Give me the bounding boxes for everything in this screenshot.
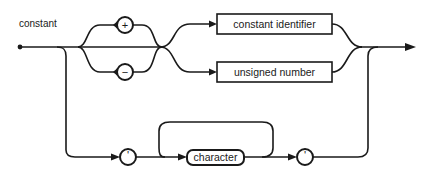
arrow-icon xyxy=(178,154,187,161)
constant-identifier-box: constant identifier xyxy=(217,14,332,34)
to-unsigned-number xyxy=(160,47,213,72)
unsigned-number-box: unsigned number xyxy=(217,62,332,82)
arrow-icon xyxy=(209,69,217,76)
open-quote-terminal: ' xyxy=(120,149,136,165)
arrow-icon xyxy=(288,154,297,161)
arrow-icon xyxy=(111,154,120,161)
plus-branch-out xyxy=(133,25,162,47)
diagram-title: constant xyxy=(19,18,57,29)
constant-identifier-label: constant identifier xyxy=(233,18,316,30)
minus-branch-out xyxy=(133,47,162,72)
minus-branch-in xyxy=(78,47,117,72)
string-branch-in xyxy=(57,47,116,157)
character-label: character xyxy=(194,151,238,163)
plus-terminal: + xyxy=(117,17,133,33)
close-quote-terminal: ' xyxy=(297,149,313,165)
minus-symbol: − xyxy=(122,66,128,78)
character-box: character xyxy=(187,150,244,165)
from-constant-identifier xyxy=(332,24,362,47)
syntax-diagram-constant: constant + − constant identifier unsigne… xyxy=(0,0,429,173)
open-quote-symbol: ' xyxy=(127,149,129,161)
from-unsigned-number xyxy=(332,47,362,72)
plus-symbol: + xyxy=(122,19,128,31)
plus-branch-in xyxy=(78,25,117,47)
close-quote-symbol: ' xyxy=(304,149,306,161)
minus-terminal: − xyxy=(117,64,133,80)
exit-arrow-icon xyxy=(405,43,416,51)
unsigned-number-label: unsigned number xyxy=(234,66,316,78)
arrow-icon xyxy=(209,21,217,28)
to-constant-identifier xyxy=(160,24,213,47)
